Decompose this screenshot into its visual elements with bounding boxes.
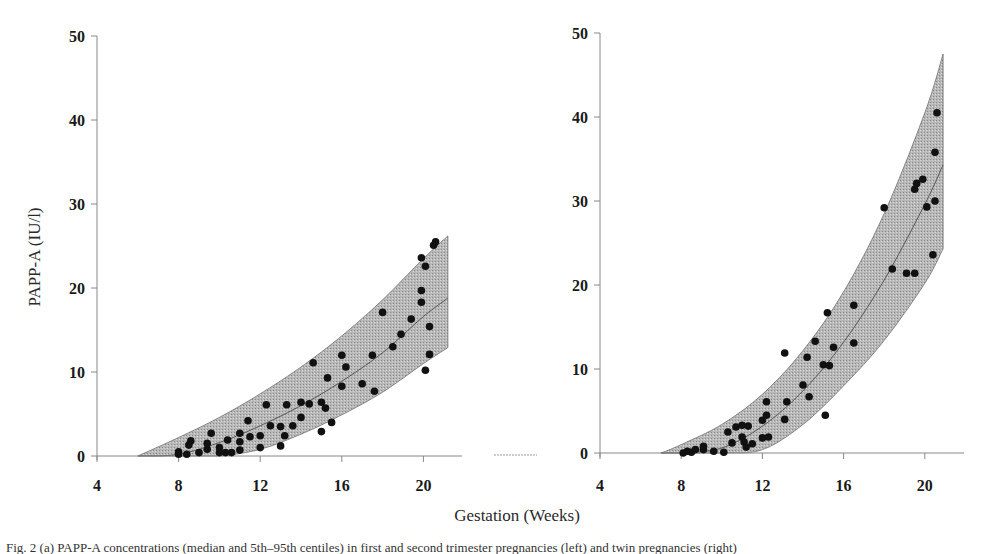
- x-tick-label: 4: [93, 477, 101, 494]
- x-tick-label: 4: [596, 477, 604, 494]
- reference-band: [661, 54, 943, 453]
- data-point: [850, 301, 858, 309]
- x-tick-label: 16: [334, 477, 350, 494]
- y-tick-label: 10: [572, 361, 588, 378]
- y-tick-label: 50: [572, 25, 588, 42]
- x-tick-label: 20: [917, 477, 933, 494]
- data-point: [763, 398, 771, 406]
- data-point: [236, 446, 244, 454]
- data-point: [422, 262, 430, 270]
- data-point: [692, 446, 700, 454]
- data-point: [700, 443, 708, 451]
- data-point: [763, 411, 771, 419]
- left-scatter-panel: 0102030405048121620: [69, 28, 462, 494]
- data-point: [195, 449, 203, 457]
- data-point: [267, 422, 275, 430]
- data-point: [256, 444, 264, 452]
- right-scatter-panel: 0102030405048121620: [572, 25, 964, 494]
- data-point: [432, 238, 440, 246]
- data-point: [749, 440, 757, 448]
- y-tick-label: 30: [69, 196, 85, 213]
- x-tick-label: 16: [836, 477, 852, 494]
- data-point: [397, 330, 405, 338]
- data-point: [783, 398, 791, 406]
- data-point: [426, 351, 434, 359]
- data-point: [297, 414, 305, 422]
- data-point: [903, 269, 911, 277]
- data-point: [338, 383, 346, 391]
- data-point: [263, 401, 271, 409]
- data-point: [318, 428, 326, 436]
- data-point: [889, 265, 897, 273]
- data-point: [277, 423, 285, 431]
- data-point: [187, 437, 195, 445]
- data-point: [911, 269, 919, 277]
- data-point: [728, 439, 736, 447]
- data-point: [277, 442, 285, 450]
- data-point: [799, 381, 807, 389]
- x-tick-label: 8: [175, 477, 183, 494]
- data-point: [720, 448, 728, 456]
- data-point: [246, 433, 254, 441]
- data-point: [183, 451, 191, 459]
- data-point: [781, 416, 789, 424]
- data-point: [297, 398, 305, 406]
- data-point: [281, 432, 289, 440]
- data-point: [931, 149, 939, 157]
- data-point: [744, 422, 752, 430]
- data-point: [207, 430, 215, 438]
- data-point: [203, 440, 211, 448]
- data-point: [244, 417, 252, 425]
- data-point: [803, 353, 811, 361]
- data-point: [931, 197, 939, 205]
- data-point: [781, 349, 789, 357]
- x-tick-label: 8: [677, 477, 685, 494]
- data-point: [418, 287, 426, 295]
- data-point: [407, 315, 415, 323]
- data-point: [358, 380, 366, 388]
- y-tick-label: 40: [572, 109, 588, 126]
- x-axis-title: Gestation (Weeks): [454, 506, 580, 525]
- data-point: [305, 400, 313, 408]
- x-tick-label: 12: [754, 477, 770, 494]
- data-point: [880, 204, 888, 212]
- data-point: [236, 430, 244, 438]
- data-point: [850, 339, 858, 347]
- data-point: [724, 428, 732, 436]
- data-point: [822, 411, 830, 419]
- data-point: [826, 362, 834, 370]
- data-point: [236, 438, 244, 446]
- y-tick-label: 30: [572, 193, 588, 210]
- data-point: [216, 444, 224, 452]
- data-point: [418, 254, 426, 262]
- y-tick-label: 0: [77, 448, 85, 465]
- data-point: [256, 432, 264, 440]
- y-tick-label: 50: [69, 28, 85, 45]
- data-point: [923, 203, 931, 211]
- data-point: [289, 422, 297, 430]
- y-tick-label: 10: [69, 364, 85, 381]
- data-point: [830, 343, 838, 351]
- y-tick-label: 20: [572, 277, 588, 294]
- data-point: [929, 251, 937, 259]
- data-point: [919, 175, 927, 183]
- data-point: [371, 388, 379, 396]
- x-tick-label: 12: [252, 477, 268, 494]
- data-point: [933, 109, 941, 117]
- data-point: [389, 343, 397, 351]
- figure-caption: Fig. 2 (a) PAPP-A concentrations (median…: [6, 540, 986, 554]
- data-point: [811, 338, 819, 346]
- y-tick-label: 0: [580, 445, 588, 462]
- data-point: [418, 299, 426, 307]
- y-axis-title: PAPP-A (IU/l): [25, 207, 44, 306]
- data-point: [328, 419, 336, 427]
- data-point: [422, 367, 430, 375]
- data-point: [379, 309, 387, 317]
- data-point: [710, 448, 718, 456]
- data-point: [175, 451, 183, 459]
- data-point: [805, 393, 813, 401]
- y-tick-label: 40: [69, 112, 85, 129]
- data-point: [369, 351, 377, 359]
- data-point: [324, 374, 332, 382]
